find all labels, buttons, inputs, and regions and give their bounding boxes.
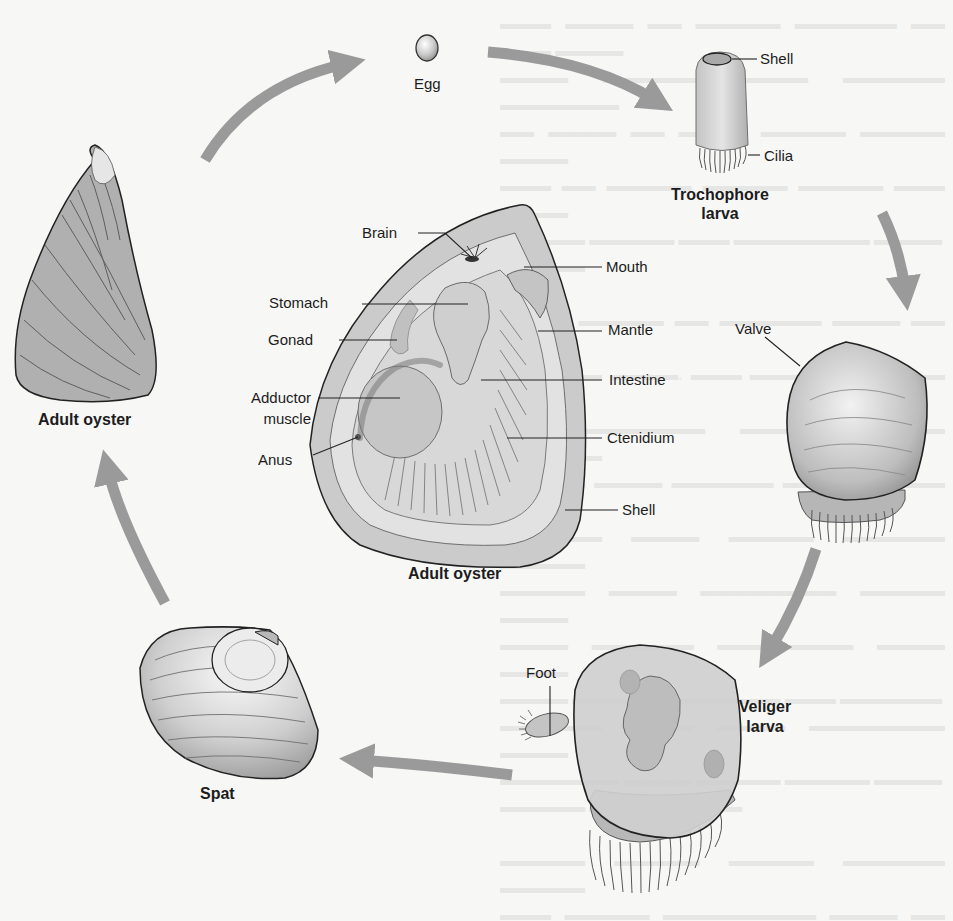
veliger-illustration — [518, 645, 741, 893]
label-spat: Spat — [200, 785, 235, 803]
label-trochophore-line2: larva — [665, 204, 775, 223]
label-foot: Foot — [526, 664, 556, 681]
label-veliger-line1: Veliger — [730, 697, 800, 717]
label-valve: Valve — [735, 320, 771, 337]
label-ctenidium: Ctenidium — [607, 429, 675, 446]
label-veliger-line2: larva — [730, 717, 800, 737]
label-trochophore-larva: Trochophore larva — [665, 185, 775, 223]
arrow-veliger-to-spat — [360, 760, 512, 775]
label-intestine: Intestine — [609, 371, 666, 388]
label-mouth: Mouth — [606, 258, 648, 275]
label-trochophore-shell: Shell — [760, 50, 793, 67]
label-adductor-line2: muscle — [245, 408, 311, 429]
life-cycle-artwork — [0, 0, 953, 921]
label-adductor-muscle: Adductor muscle — [245, 387, 311, 429]
label-trochophore-line1: Trochophore — [665, 185, 775, 204]
arrow-valve-to-veliger — [770, 549, 816, 650]
adult-oyster-anatomy-illustration — [310, 205, 586, 568]
label-trochophore-cilia: Cilia — [764, 147, 793, 164]
label-gonad: Gonad — [268, 331, 313, 348]
label-veliger-larva: Veliger larva — [730, 697, 800, 737]
arrow-adult-to-egg — [205, 64, 345, 160]
arrow-spat-to-adult — [108, 470, 165, 603]
label-egg: Egg — [414, 75, 441, 92]
label-shell: Shell — [622, 501, 655, 518]
trochophore-illustration — [696, 52, 760, 173]
label-anus: Anus — [258, 451, 292, 468]
adult-oyster-shell-illustration — [15, 145, 156, 402]
egg-illustration — [416, 35, 438, 61]
label-stomach: Stomach — [269, 294, 328, 311]
label-brain: Brain — [362, 224, 397, 241]
label-mantle: Mantle — [608, 321, 653, 338]
arrow-egg-to-trochophore — [488, 52, 655, 100]
label-adult-oyster-left: Adult oyster — [38, 411, 131, 429]
valve-stage-illustration — [765, 337, 927, 543]
spat-illustration — [140, 627, 318, 779]
label-adductor-line1: Adductor — [245, 387, 311, 408]
label-adult-oyster-center: Adult oyster — [408, 565, 501, 583]
arrow-trochophore-to-valve — [882, 213, 905, 290]
